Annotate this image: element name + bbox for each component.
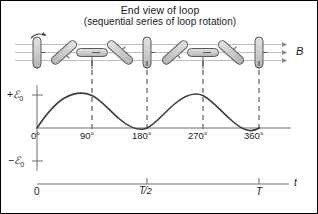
loop-4-edge-on <box>143 37 155 69</box>
emf-positive-label: +ℰ0 <box>7 88 23 102</box>
loop-series <box>33 36 267 69</box>
magnetic-field-label: B <box>296 45 303 57</box>
physics-figure-induced-emf: End view of loop (sequential series of l… <box>0 0 318 214</box>
x-tick-label-360deg: 360° <box>244 130 264 141</box>
loop-7-tilted <box>217 36 248 66</box>
emf-sine-curve <box>37 93 259 130</box>
loop-8-edge-on <box>255 37 267 69</box>
x-tick-label-0deg: 0° <box>31 130 40 141</box>
x-tick-label-180deg: 180° <box>132 130 152 141</box>
x-tick-label-270deg: 270° <box>188 130 208 141</box>
time-label-zero: 0 <box>34 186 40 197</box>
time-label-full: T <box>256 186 262 197</box>
diagram-canvas <box>1 1 318 214</box>
dashed-guide-lines <box>92 61 259 132</box>
loop-5-tilted <box>161 39 192 69</box>
x-tick-label-90deg: 90° <box>80 130 94 141</box>
time-label-half: T⁄2 <box>139 185 152 196</box>
loop-3-tilted <box>106 36 137 66</box>
loop-1-tilted <box>50 39 81 69</box>
emf-negative-label: −ℰ0 <box>8 154 24 168</box>
loop-0-edge-on <box>33 37 45 69</box>
time-axis-label: t <box>294 177 297 188</box>
